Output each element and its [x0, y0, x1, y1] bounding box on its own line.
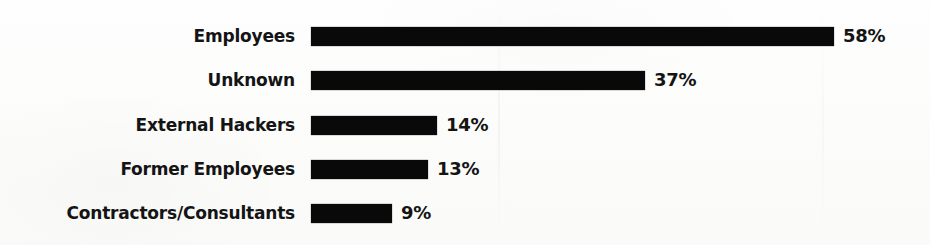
bar-value-label: 58%: [843, 24, 885, 48]
category-label: Contractors/Consultants: [5, 201, 295, 225]
chart-row: Employees 58%: [0, 24, 930, 48]
category-label: Employees: [5, 24, 295, 48]
category-label: Former Employees: [5, 157, 295, 181]
chart-row: Former Employees 13%: [0, 157, 930, 181]
bar: [311, 27, 834, 46]
bar-value-label: 37%: [654, 68, 696, 92]
bar-value-label: 14%: [446, 113, 488, 137]
category-label: Unknown: [5, 68, 295, 92]
chart-row: External Hackers 14%: [0, 113, 930, 137]
chart-row: Unknown 37%: [0, 68, 930, 92]
chart-row: Contractors/Consultants 9%: [0, 201, 930, 225]
bar: [311, 116, 437, 135]
bar: [311, 160, 428, 179]
bar-value-label: 13%: [437, 157, 479, 181]
bar: [311, 71, 645, 90]
chart-plot-area: Employees 58% Unknown 37% External Hacke…: [0, 0, 930, 245]
bar: [311, 204, 392, 223]
bar-chart: Employees 58% Unknown 37% External Hacke…: [0, 0, 930, 245]
bar-value-label: 9%: [401, 201, 431, 225]
category-label: External Hackers: [5, 113, 295, 137]
